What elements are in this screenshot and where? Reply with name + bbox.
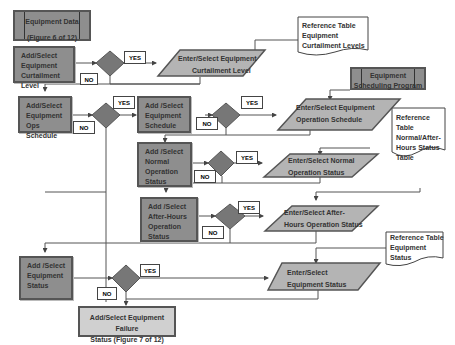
node-label: Operation Schedule (296, 115, 388, 125)
node-label: Normal/After- (396, 133, 446, 143)
no-label: NO (194, 170, 216, 183)
node-label: Curtailment Levels (302, 41, 366, 51)
node-label: Equipment Data (15, 17, 89, 27)
equipment-data-box[interactable]: Equipment Data (Figure 6 of 12) (13, 10, 91, 41)
reference-table-normal-afterhours-doc[interactable]: Reference Table Normal/After- Hours Stat… (396, 113, 446, 163)
node-label: Equipment Ops (26, 111, 70, 131)
node-label: Add /Select (148, 202, 196, 212)
add-equipment-status-box[interactable]: Add /Select Equipment Status (19, 256, 73, 300)
no-label: NO (80, 73, 98, 85)
node-label: Add/Select (26, 101, 70, 111)
node-label: Hours Operation Status (284, 220, 376, 230)
node-label: Status (148, 232, 196, 242)
node-label: Operation (145, 167, 190, 177)
node-label: Reference (396, 113, 446, 123)
node-label: Add /Select (27, 261, 71, 271)
node-label: Add/Select Equipment Failure (80, 312, 174, 334)
add-curtailment-level-box[interactable]: Add/Select Equipment Curtailment Level (13, 46, 75, 83)
node-label: Add /Select (145, 147, 190, 157)
node-label: Equipment (352, 71, 424, 81)
equipment-failure-status-box[interactable]: Add/Select Equipment Failure Status (Fig… (78, 306, 176, 337)
node-label: Status (Figure 7 of 12) (80, 334, 174, 345)
enter-normal-operation-status-io[interactable]: Enter/Select Normal Operation Status (288, 156, 368, 176)
node-label: Table (396, 153, 446, 163)
add-equipment-ops-schedule-box[interactable]: Add/Select Equipment Ops Schedule (18, 96, 72, 133)
node-label: Schedule (145, 121, 189, 131)
node-label: Equipment (145, 111, 189, 121)
add-afterhours-operation-status-box[interactable]: Add /Select After-Hours Operation Status (140, 197, 198, 242)
equipment-scheduling-program-box[interactable]: Equipment Scheduling Program (350, 67, 426, 90)
node-label: Hours Status (396, 143, 446, 153)
node-label: Enter/Select After- (284, 208, 376, 218)
node-label: Enter/Select (287, 268, 367, 278)
node-label: Equipment (21, 61, 73, 71)
node-label: Add/Select (21, 51, 73, 61)
yes-label: YES (113, 96, 135, 109)
node-label: Equipment (302, 31, 366, 41)
node-label: Equipment Status (287, 280, 367, 290)
node-label: Status (390, 253, 445, 263)
node-label: Operation Status (288, 168, 368, 178)
node-label: Table (396, 123, 446, 133)
node-label: Enter/Select Normal (288, 156, 368, 166)
node-label: Reference Table (390, 233, 445, 243)
node-label: Curtailment Level (21, 71, 73, 91)
node-label: Enter/Select Equipment (178, 54, 258, 64)
node-label: (Figure 6 of 12) (15, 33, 89, 43)
yes-label: YES (124, 51, 146, 64)
node-label: Enter/Select Equipment (296, 103, 388, 113)
node-label: Status (145, 177, 190, 187)
reference-table-curtailment-doc[interactable]: Reference Table Equipment Curtailment Le… (302, 21, 366, 51)
node-label: Equipment (27, 271, 71, 281)
yes-label: YES (238, 201, 260, 214)
no-label: NO (97, 287, 117, 300)
node-label: Normal (145, 157, 190, 167)
node-label: Reference Table (302, 21, 366, 31)
node-label: Status (27, 281, 71, 291)
node-label: Schedule (26, 131, 70, 141)
node-label: Equipment (390, 243, 445, 253)
no-label: NO (202, 226, 224, 239)
node-label: After-Hours (148, 212, 196, 222)
no-label: NO (73, 121, 95, 134)
no-label: NO (196, 117, 218, 130)
reference-table-equipment-status-doc[interactable]: Reference Table Equipment Status (390, 233, 445, 263)
add-normal-operation-status-box[interactable]: Add /Select Normal Operation Status (137, 142, 192, 187)
add-equipment-schedule-box[interactable]: Add /Select Equipment Schedule (137, 96, 191, 133)
enter-operation-schedule-io[interactable]: Enter/Select Equipment Operation Schedul… (296, 103, 388, 127)
node-label: Curtailment Level (178, 66, 258, 76)
decision-diamond-curtailment (96, 51, 124, 76)
yes-label: YES (236, 151, 258, 164)
yes-label: YES (241, 96, 263, 109)
node-label: Operation (148, 222, 196, 232)
yes-label: YES (140, 264, 160, 277)
enter-afterhours-operation-status-io[interactable]: Enter/Select After- Hours Operation Stat… (284, 208, 376, 228)
enter-curtailment-level-io[interactable]: Enter/Select Equipment Curtailment Level (178, 54, 258, 76)
node-label: Add /Select (145, 101, 189, 111)
node-label: Scheduling Program (352, 81, 424, 91)
enter-equipment-status-io[interactable]: Enter/Select Equipment Status (287, 268, 367, 288)
